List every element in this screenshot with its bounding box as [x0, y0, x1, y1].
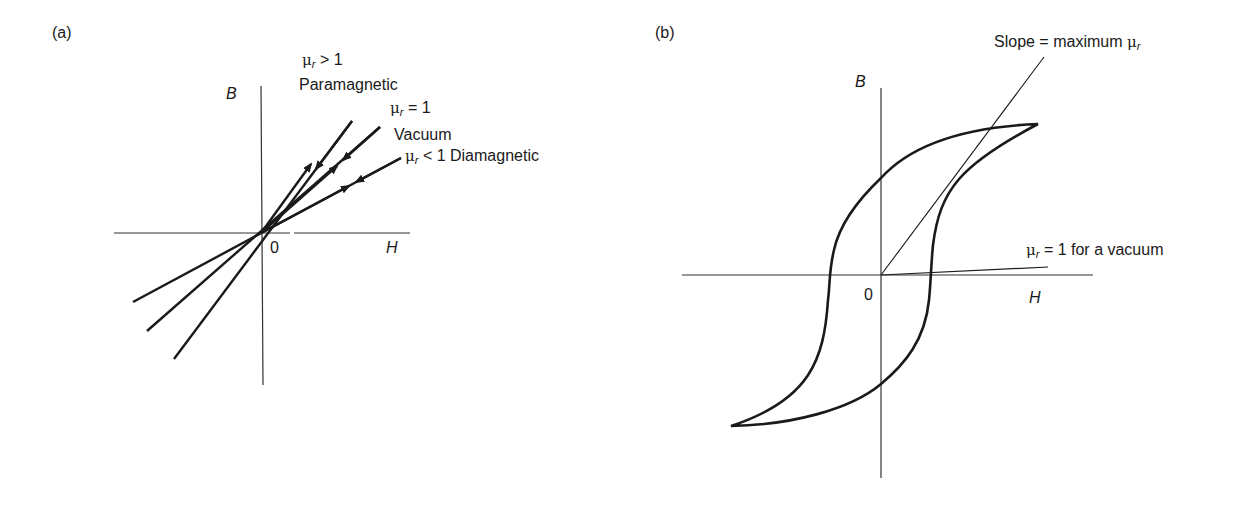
vacuum-name-label: Vacuum: [394, 127, 452, 143]
max-slope-label: Slope = maximum μr: [994, 34, 1140, 50]
panel-b-tag: (b): [655, 25, 675, 41]
max-slope-line: [881, 57, 1044, 275]
panel-b-b-label: B: [855, 74, 866, 90]
panel-a-h-label: H: [386, 240, 398, 256]
panel-a-b-axis: [261, 86, 263, 385]
diamagnetic-arrow-down: [356, 158, 401, 182]
panel-a-b-label: B: [226, 86, 237, 102]
vacuum-slope-line: [881, 267, 1048, 275]
panel-a-diagram: [114, 86, 410, 385]
panel-b-h-label: H: [1029, 290, 1041, 306]
vacuum-slope-label: μr = 1 for a vacuum: [1026, 242, 1164, 258]
panel-b-diagram: [682, 57, 1093, 478]
diamagnetic-label: μr < 1 Diamagnetic: [405, 148, 539, 164]
vacuum-mu-label: μr = 1: [390, 100, 431, 116]
paramagnetic-arrow-up: [261, 164, 311, 233]
panel-a-tag: (a): [52, 25, 72, 41]
paramagnetic-name-label: Paramagnetic: [299, 77, 398, 93]
panel-a-origin-label: 0: [270, 240, 279, 256]
panel-b-origin-label: 0: [864, 287, 873, 303]
paramagnetic-arrow-down: [316, 121, 352, 169]
paramagnetic-mu-label: μr > 1: [302, 52, 343, 68]
vacuum-arrow-down: [343, 127, 380, 160]
